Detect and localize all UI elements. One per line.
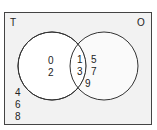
venn-diagram bbox=[0, 0, 157, 130]
intersection-value: 1 bbox=[77, 55, 83, 65]
right-set-label: O bbox=[137, 18, 145, 28]
left-only-value: 0 bbox=[48, 56, 54, 66]
right-only-value: 9 bbox=[85, 79, 91, 89]
universal-set-label: T bbox=[10, 18, 16, 28]
right-only-value: 5 bbox=[91, 55, 97, 65]
left-only-value: 2 bbox=[48, 68, 54, 78]
outside-value: 8 bbox=[15, 112, 21, 122]
intersection-value: 3 bbox=[77, 67, 83, 77]
outside-value: 4 bbox=[15, 88, 21, 98]
outside-value: 6 bbox=[15, 100, 21, 110]
right-only-value: 7 bbox=[91, 67, 97, 77]
